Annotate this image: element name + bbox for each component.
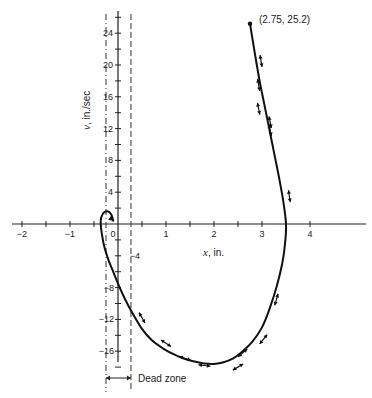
x-axis-label: x, in.: [202, 246, 224, 258]
direction-arrow-pair-icon: [255, 102, 261, 115]
y-tick-label: 12: [103, 124, 113, 134]
direction-arrow-pair-icon: [258, 55, 264, 67]
direction-arrow-pair-icon: [286, 190, 292, 202]
y-tick-label: −16: [99, 346, 114, 356]
dead-zone-arrow-left-icon: [106, 376, 110, 381]
direction-arrow-pair-icon: [232, 362, 244, 371]
x-axis-unit: , in.: [208, 247, 224, 258]
start-point-label: (2.75, 25.2): [259, 14, 310, 25]
y-tick-label: 20: [103, 60, 113, 70]
dead-zone-label: Dead zone: [138, 373, 187, 384]
arrow-head-back-icon: [239, 362, 244, 367]
x-tick-label: 4: [307, 229, 312, 239]
x-tick-label: 1: [163, 229, 168, 239]
x-tick-label: −1: [65, 229, 75, 239]
arrow-head-forward-icon: [160, 338, 165, 343]
axes: [12, 11, 366, 362]
arrow-head-forward-icon: [232, 367, 237, 372]
y-tick-label: 4: [108, 187, 113, 197]
direction-arrow-pair-icon: [258, 333, 269, 345]
x-tick-label: −2: [17, 229, 27, 239]
y-tick-label: 16: [103, 92, 113, 102]
x-tick-label: 3: [259, 229, 264, 239]
dead-zone-annotation: [106, 376, 131, 381]
y-axis-unit: , in./sec: [81, 91, 92, 125]
axis-tick-labels: −2−1012342420161284−4−8−12−16: [17, 28, 313, 356]
y-tick-label: −12: [99, 314, 114, 324]
direction-arrow-pair-icon: [237, 347, 249, 358]
arrow-head-back-icon: [167, 343, 172, 348]
dead-zone-arrow-right-icon: [127, 376, 131, 381]
y-tick-label: 8: [108, 155, 113, 165]
trajectory-curve: [101, 24, 286, 364]
y-axis-label: v, in./sec: [80, 91, 92, 130]
arrow-head-forward-icon: [137, 312, 142, 317]
arrow-head-back-icon: [142, 319, 147, 324]
x-tick-label: 0: [110, 229, 115, 239]
x-tick-label: 2: [211, 229, 216, 239]
y-tick-label: −4: [130, 251, 140, 261]
y-tick-label: −8: [104, 283, 114, 293]
start-point-marker: [248, 21, 252, 25]
phase-plane-chart: −2−1012342420161284−4−8−12−16 (2.75, 25.…: [0, 0, 372, 398]
y-tick-label: 24: [103, 28, 113, 38]
